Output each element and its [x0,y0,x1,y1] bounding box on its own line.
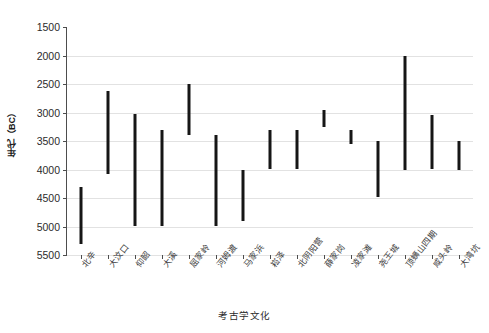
range-bar [431,115,434,169]
y-axis-tick-label: 5500 [37,249,60,261]
y-axis-tick-label: 4000 [37,164,60,176]
range-bar [133,114,136,227]
x-axis-tick-label: 仰韶 [132,248,152,269]
range-bar [404,56,407,170]
y-axis-tick-mark [63,198,67,199]
x-axis-tick-label: 崧泽 [267,248,287,269]
x-axis-tick-label: 大湾坑 [456,241,482,269]
range-bar [79,187,82,244]
range-bar [160,130,163,227]
range-bar [214,135,217,226]
y-axis-tick-label: 2000 [37,50,60,62]
y-axis-title: 年代（BC） [2,0,20,265]
range-bar [458,141,461,170]
range-bar [269,130,272,170]
range-bar [323,110,326,127]
x-axis-tick-label: 大溪 [159,248,179,269]
gridline [67,56,473,57]
y-axis-tick-mark [63,141,67,142]
range-bar [296,130,299,170]
y-axis-tick-mark [63,113,67,114]
chart-container: 年代（BC） 150020002500300035004000450050005… [0,0,489,333]
gridline [67,113,473,114]
y-axis-tick-label: 2500 [37,78,60,90]
gridline [67,84,473,85]
y-axis-tick-label: 5000 [37,221,60,233]
x-axis-tick-label: 北辛 [78,248,98,269]
y-axis-tick-label: 4500 [37,192,60,204]
range-bar [106,91,109,174]
x-axis-title: 考古学文化 [0,308,489,322]
plot-area: 150020002500300035004000450050005500北辛大汶… [66,27,473,256]
x-axis-tick-label: 北阴阳营 [294,234,325,269]
y-axis-tick-mark [63,56,67,57]
y-axis-tick-mark [63,170,67,171]
gridline [67,170,473,171]
range-bar [350,130,353,144]
y-axis-tick-label: 3500 [37,135,60,147]
y-axis-tick-mark [63,227,67,228]
y-axis-tick-mark [63,27,67,28]
y-axis-tick-mark [63,84,67,85]
gridline [67,227,473,228]
y-axis-tick-label: 1500 [37,21,60,33]
range-bar [377,141,380,197]
gridline [67,198,473,199]
y-axis-tick-mark [63,255,67,256]
range-bar [241,170,244,221]
y-axis-tick-label: 3000 [37,107,60,119]
range-bar [187,84,190,135]
